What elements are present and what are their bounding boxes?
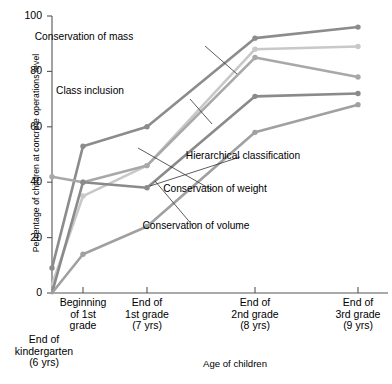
- data-point: [355, 44, 360, 49]
- series-line: [52, 27, 358, 268]
- chart-container: Percentage of children at concrete opera…: [0, 0, 392, 384]
- x-axis-tick-label-line: End of: [108, 297, 186, 309]
- data-point: [80, 180, 85, 185]
- y-axis-tick-label: 100: [16, 9, 42, 21]
- data-point: [49, 265, 54, 270]
- data-point: [252, 47, 257, 52]
- data-point: [355, 24, 360, 29]
- annotation-leader-line: [205, 46, 237, 74]
- data-point: [355, 102, 360, 107]
- x-axis-tick-label: End ofkindergarten(6 yrs): [5, 334, 83, 369]
- data-point: [355, 74, 360, 79]
- x-axis-tick-label: End of1st grade(7 yrs): [108, 297, 186, 332]
- data-point: [252, 35, 257, 40]
- series-line: [52, 105, 358, 293]
- x-axis-tick-label-line: End of: [216, 297, 294, 309]
- y-axis-tick-label: 40: [16, 175, 42, 187]
- data-point: [252, 94, 257, 99]
- y-axis-tick-label: 20: [16, 231, 42, 243]
- data-point: [80, 252, 85, 257]
- series-line: [52, 58, 358, 183]
- x-axis-tick-label-line: End of: [319, 297, 392, 309]
- x-axis-tick-label-line: (6 yrs): [5, 357, 83, 369]
- x-axis-tick-label-line: (8 yrs): [216, 320, 294, 332]
- data-point: [252, 130, 257, 135]
- series-annotation-label: Conservation of weight: [163, 183, 267, 194]
- data-point: [252, 55, 257, 60]
- data-point: [144, 124, 149, 129]
- x-axis-title: Age of children: [160, 358, 310, 369]
- data-point: [144, 163, 149, 168]
- data-point: [80, 193, 85, 198]
- x-axis-tick-label: End of2nd grade(8 yrs): [216, 297, 294, 332]
- x-axis-tick-label-line: (7 yrs): [108, 320, 186, 332]
- data-point: [144, 185, 149, 190]
- y-axis-tick-label: 80: [16, 64, 42, 76]
- y-axis-tick-label: 60: [16, 120, 42, 132]
- data-point: [80, 143, 85, 148]
- series-annotation-label: Conservation of volume: [142, 220, 249, 231]
- x-axis-tick-label-line: End of: [5, 334, 83, 346]
- x-axis-tick-label: End of3rd grade(9 yrs): [319, 297, 392, 332]
- series-annotation-label: Class inclusion: [56, 85, 124, 96]
- x-axis-tick-label-line: (9 yrs): [319, 320, 392, 332]
- series-annotation-label: Conservation of mass: [35, 31, 134, 42]
- y-axis-tick-label: 0: [16, 286, 42, 298]
- data-point: [49, 174, 54, 179]
- data-point: [355, 91, 360, 96]
- series-annotation-label: Hierarchical classification: [186, 150, 300, 161]
